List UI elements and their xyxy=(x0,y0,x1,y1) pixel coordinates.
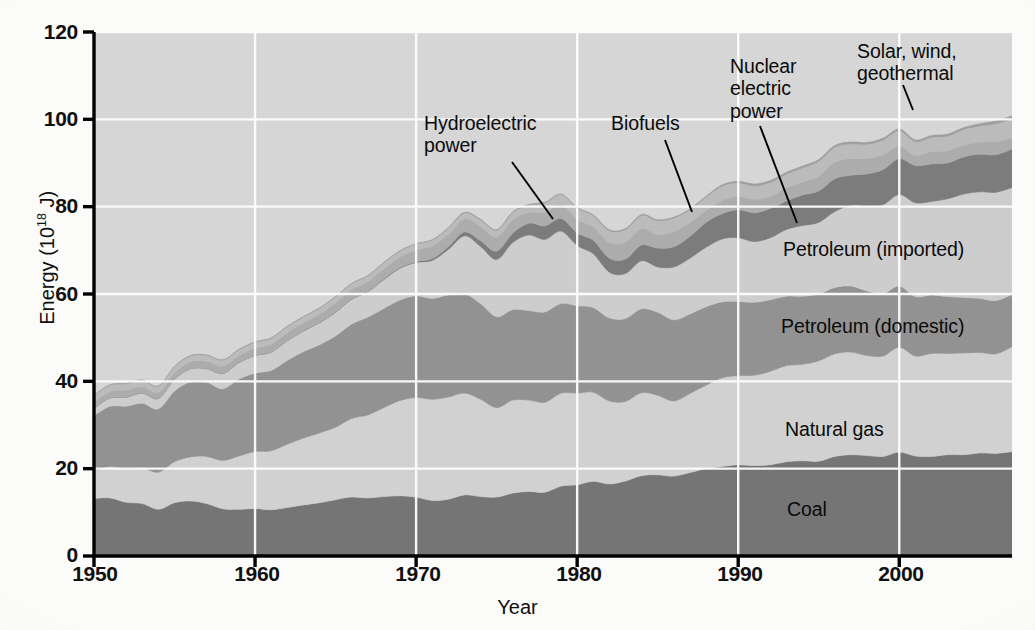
annotation-hydroelectric: Hydroelectric power xyxy=(424,112,536,157)
y-axis-title-suffix: J) xyxy=(36,191,58,213)
x-tick-1950: 1950 xyxy=(50,562,140,586)
y-axis-title-prefix: Energy (10 xyxy=(36,227,58,325)
y-tick-120: 120 xyxy=(18,20,78,44)
annotation-petroleum-imported: Petroleum (imported) xyxy=(783,238,964,260)
x-tick-1980: 1980 xyxy=(534,562,624,586)
x-tick-1960: 1960 xyxy=(212,562,302,586)
y-tick-100: 100 xyxy=(18,107,78,131)
y-axis-title: Energy (1018 J) xyxy=(35,133,59,383)
x-tick-1970: 1970 xyxy=(373,562,463,586)
annotation-natural-gas: Natural gas xyxy=(785,418,884,440)
annotation-petroleum-domestic: Petroleum (domestic) xyxy=(781,315,964,337)
annotation-solar: Solar, wind, geothermal xyxy=(857,40,957,85)
x-tick-1990: 1990 xyxy=(695,562,785,586)
annotation-biofuels: Biofuels xyxy=(611,112,680,134)
y-tick-20: 20 xyxy=(18,456,78,480)
x-tick-2000: 2000 xyxy=(856,562,946,586)
annotation-nuclear: Nuclear electric power xyxy=(730,55,797,122)
energy-consumption-chart: ​‌‍ ‌ ‍ ‌ ‍ ‌ ‍ ‌ ‍ ‌ ‍ ‌ ‍ ‌ ‍ ‌ ‍ ‌ ‍ … xyxy=(0,0,1035,630)
annotation-coal: Coal xyxy=(787,498,827,520)
y-axis-title-exponent: 18 xyxy=(35,213,49,227)
x-axis-title: Year xyxy=(0,596,1035,619)
